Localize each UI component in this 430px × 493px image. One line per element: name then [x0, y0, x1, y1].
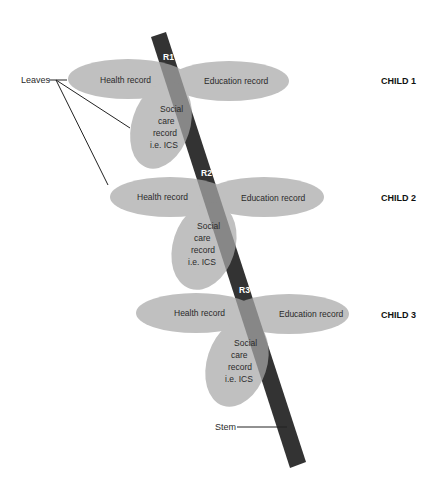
education-record-text-1: Education record	[204, 76, 269, 86]
education-record-text-2: Education record	[241, 193, 306, 203]
health-record-text-3: Health record	[174, 308, 225, 318]
social-text-3c: record	[228, 362, 252, 372]
social-text-3a: Social	[234, 338, 257, 348]
health-record-text-2: Health record	[137, 192, 188, 202]
node-label-r3: R3	[239, 285, 250, 295]
leaves-label: Leaves	[21, 75, 51, 85]
node-label-r1: R1	[163, 52, 174, 62]
child-1-label: CHILD 1	[381, 76, 416, 86]
social-text-2b: care	[194, 233, 211, 243]
social-text-1a: Social	[160, 104, 183, 114]
social-text-1d: i.e. ICS	[150, 140, 178, 150]
social-text-3d: i.e. ICS	[225, 374, 253, 384]
health-record-text-1: Health record	[100, 75, 151, 85]
education-record-text-3: Education record	[279, 309, 344, 319]
child-2-label: CHILD 2	[381, 193, 416, 203]
node-label-r2: R2	[201, 168, 212, 178]
stem-label: Stem	[215, 422, 236, 432]
social-text-2d: i.e. ICS	[188, 257, 216, 267]
social-text-1b: care	[158, 116, 175, 126]
social-text-2c: record	[191, 245, 215, 255]
social-text-1c: record	[153, 128, 177, 138]
stem-and-leaves-diagram: Leaves Stem R1 R2 R3 Health record Educa…	[0, 0, 430, 493]
child-3-label: CHILD 3	[381, 310, 416, 320]
social-text-2a: Social	[197, 221, 220, 231]
social-text-3b: care	[231, 350, 248, 360]
